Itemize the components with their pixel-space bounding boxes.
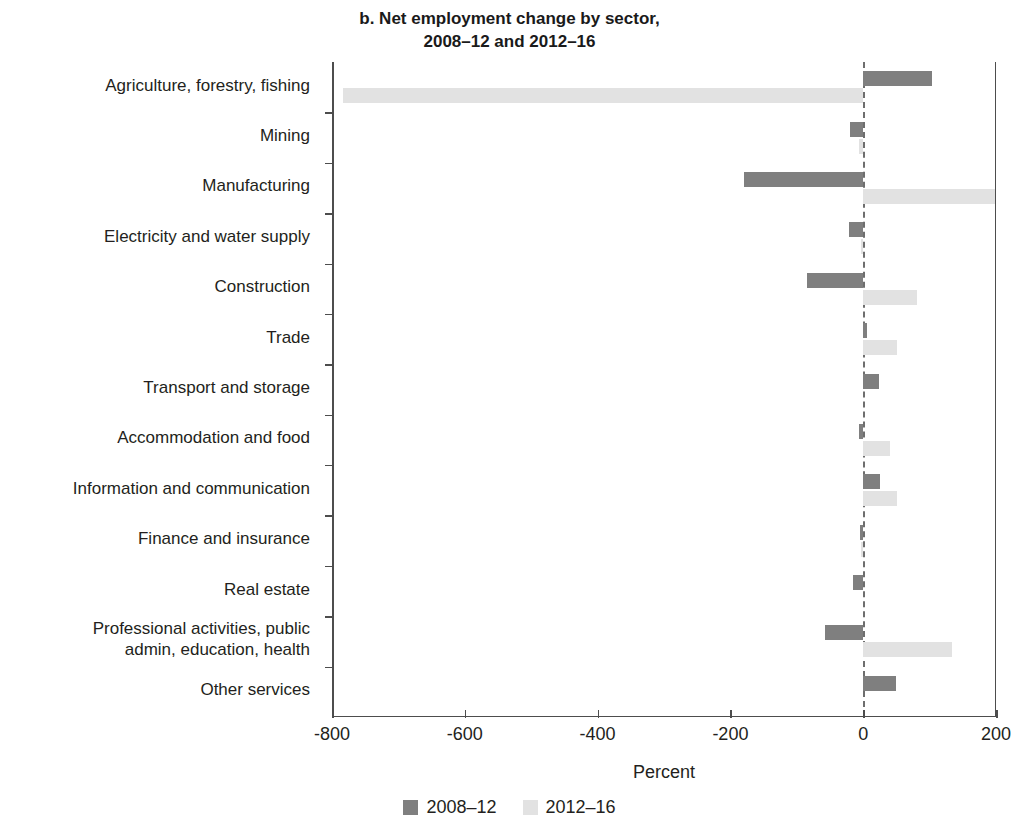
bar-series2 (863, 340, 897, 355)
x-axis-tick (332, 710, 334, 718)
x-tick-label: 0 (858, 724, 868, 745)
x-axis-tick (465, 710, 467, 718)
y-axis-tick (325, 566, 333, 567)
y-axis-tick (325, 264, 333, 265)
y-axis-tick (325, 616, 333, 617)
x-axis-title: Percent (332, 762, 996, 783)
plot-area (332, 62, 996, 717)
bar-series2 (861, 542, 864, 557)
y-axis-tick (325, 364, 333, 365)
category-label: Manufacturing (0, 175, 322, 196)
category-label: Agriculture, forestry, fishing (0, 75, 322, 96)
bar-series1 (825, 625, 863, 640)
bar-row (332, 69, 996, 105)
category-label: Accommodation and food (0, 427, 322, 448)
bar-series1 (853, 575, 863, 590)
x-tick-label: 200 (981, 724, 1011, 745)
x-axis-tick (598, 710, 600, 718)
x-tick-label: -200 (712, 724, 748, 745)
bar-row (332, 623, 996, 659)
bar-series2 (863, 642, 952, 657)
bar-series2 (863, 189, 995, 204)
bar-series1 (859, 424, 863, 439)
y-axis-tick (325, 667, 333, 668)
category-label: Real estate (0, 579, 322, 600)
bar-row (332, 422, 996, 458)
category-label: Mining (0, 125, 322, 146)
y-axis-tick (325, 465, 333, 466)
bar-series1 (744, 172, 863, 187)
legend-swatch-icon (403, 800, 418, 815)
bar-series1 (863, 374, 879, 389)
y-axis-tick (325, 163, 333, 164)
bar-series2 (343, 88, 863, 103)
bar-series2 (859, 139, 864, 154)
chart-title: b. Net employment change by sector, 2008… (0, 8, 1019, 54)
legend-label: 2008–12 (426, 797, 496, 818)
chart-legend: 2008–122012–16 (0, 797, 1019, 818)
x-axis-tick (863, 710, 865, 718)
category-label: Information and communication (0, 478, 322, 499)
bar-series1 (863, 474, 880, 489)
legend-item: 2012–16 (523, 797, 616, 818)
bar-row (332, 372, 996, 408)
bar-row (332, 472, 996, 508)
bar-series1 (807, 273, 863, 288)
bar-row (332, 321, 996, 357)
y-axis-tick (325, 112, 333, 113)
category-label: Transport and storage (0, 377, 322, 398)
x-tick-label: -600 (447, 724, 483, 745)
legend-item: 2008–12 (403, 797, 496, 818)
category-axis-labels: Agriculture, forestry, fishingMiningManu… (0, 62, 322, 717)
bar-series2 (863, 491, 897, 506)
x-tick-label: -400 (580, 724, 616, 745)
bar-row (332, 573, 996, 609)
bar-row (332, 220, 996, 256)
category-label: Finance and insurance (0, 528, 322, 549)
x-tick-label: -800 (314, 724, 350, 745)
bar-row (332, 120, 996, 156)
x-axis-tick (730, 710, 732, 718)
axis-bottom-spine (332, 716, 996, 718)
bar-series1 (863, 71, 932, 86)
category-label: Trade (0, 327, 322, 348)
category-label: Electricity and water supply (0, 226, 322, 247)
category-label: Other services (0, 679, 322, 700)
bar-row (332, 170, 996, 206)
y-axis-tick (325, 515, 333, 516)
bar-row (332, 271, 996, 307)
legend-label: 2012–16 (546, 797, 616, 818)
category-label: Construction (0, 276, 322, 297)
bar-series1 (863, 676, 896, 691)
bar-series1 (863, 323, 867, 338)
y-axis-tick (325, 314, 333, 315)
bar-series1 (860, 525, 863, 540)
legend-swatch-icon (523, 800, 538, 815)
category-label: Professional activities, public admin, e… (0, 618, 322, 661)
bar-series1 (850, 122, 863, 137)
bar-series2 (863, 290, 917, 305)
bar-series2 (863, 441, 890, 456)
bar-row (332, 674, 996, 710)
bar-row (332, 523, 996, 559)
y-axis-tick (325, 415, 333, 416)
bar-series1 (849, 222, 863, 237)
bar-series2 (861, 239, 863, 254)
x-axis-tick (996, 710, 998, 718)
y-axis-tick (325, 213, 333, 214)
